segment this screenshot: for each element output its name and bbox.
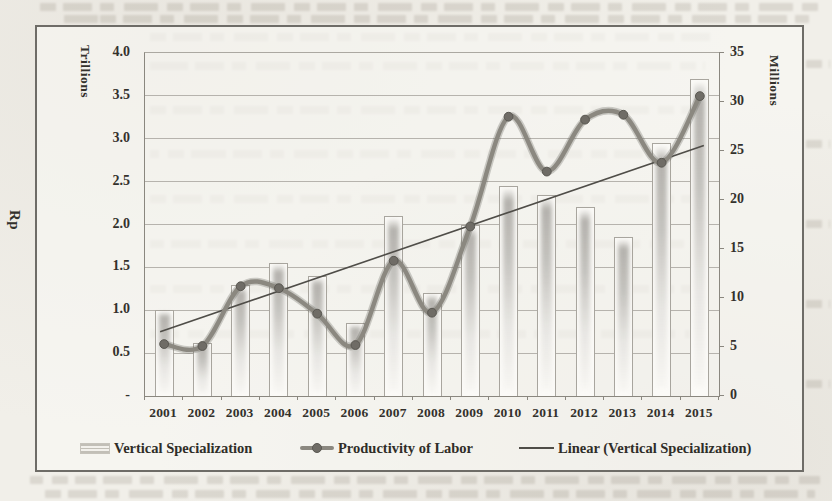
bleedthrough-text <box>806 380 830 388</box>
trendline-swatch-icon <box>519 447 554 449</box>
data-point-2007 <box>389 256 398 265</box>
x-axis-tick <box>144 396 145 400</box>
x-axis-label-2008: 2008 <box>411 405 451 421</box>
x-axis-label-2007: 2007 <box>373 405 413 421</box>
legend-label: Linear (Vertical Specialization) <box>558 440 751 457</box>
right-axis-tick-label: 15 <box>730 240 762 256</box>
trendline <box>160 146 704 332</box>
x-axis-label-2013: 2013 <box>602 405 642 421</box>
x-axis-tick <box>182 396 183 400</box>
left-axis-tick-label: 1.0 <box>78 301 130 317</box>
x-axis-tick <box>374 396 375 400</box>
left-axis-tick-label: - <box>78 387 130 403</box>
right-axis-tick-label: 25 <box>730 142 762 158</box>
x-axis-tick <box>527 396 528 400</box>
right-axis-tick-label: 0 <box>730 387 762 403</box>
data-point-2003 <box>236 282 245 291</box>
legend-label: Vertical Specialization <box>114 440 252 457</box>
x-axis-label-2015: 2015 <box>679 405 719 421</box>
plot-area <box>144 52 720 397</box>
left-axis-tick-label: 2.0 <box>78 216 130 232</box>
x-axis-tick <box>641 396 642 400</box>
x-axis-label-2010: 2010 <box>488 405 528 421</box>
x-axis-tick <box>221 396 222 400</box>
line-layers <box>145 53 719 396</box>
striped-bar-swatch-icon <box>80 443 110 454</box>
x-axis-tick <box>488 396 489 400</box>
left-axis-title: Rp <box>6 210 23 230</box>
right-axis-tick <box>719 346 724 347</box>
bleedthrough-text <box>30 476 820 484</box>
right-axis-tick-label: 5 <box>730 338 762 354</box>
legend-item-productivity-of-labor: Productivity of Labor <box>300 439 473 457</box>
chart-figure: Trillions Millions 4.03.53.02.52.01.51.0… <box>35 25 804 472</box>
right-axis-tick <box>719 101 724 102</box>
x-axis-label-2014: 2014 <box>641 405 681 421</box>
x-axis-label-2002: 2002 <box>181 405 221 421</box>
x-axis-label-2005: 2005 <box>296 405 336 421</box>
line-marker-swatch-icon <box>300 442 334 454</box>
x-axis-tick <box>718 396 719 400</box>
left-axis-tick-label: 1.5 <box>78 258 130 274</box>
x-axis-label-2004: 2004 <box>258 405 298 421</box>
x-axis-label-2001: 2001 <box>143 405 183 421</box>
left-axis-tick-label: 0.5 <box>78 344 130 360</box>
data-point-2008 <box>428 308 437 317</box>
data-point-2012 <box>581 115 590 124</box>
legend-item-vertical-specialization: Vertical Specialization <box>80 439 252 457</box>
left-axis-tick-label: 2.5 <box>78 173 130 189</box>
left-axis-tick-label: 4.0 <box>78 44 130 60</box>
right-axis-tick <box>719 395 724 396</box>
bleedthrough-text <box>60 15 815 23</box>
bleedthrough-text <box>806 140 830 148</box>
x-axis-tick <box>412 396 413 400</box>
right-axis-tick <box>719 150 724 151</box>
data-point-2014 <box>657 158 666 167</box>
right-axis-tick-label: 35 <box>730 44 762 60</box>
right-axis-title: Millions <box>766 55 782 106</box>
right-axis-tick-label: 30 <box>730 93 762 109</box>
x-axis-label-2009: 2009 <box>449 405 489 421</box>
bleedthrough-text <box>45 490 815 498</box>
x-axis-label-2012: 2012 <box>564 405 604 421</box>
x-axis-label-2003: 2003 <box>220 405 260 421</box>
right-axis-tick-label: 20 <box>730 191 762 207</box>
data-point-2013 <box>619 110 628 119</box>
data-point-2005 <box>313 309 322 318</box>
bleedthrough-text <box>806 220 830 228</box>
x-axis-label-2006: 2006 <box>334 405 374 421</box>
x-axis-tick <box>259 396 260 400</box>
right-axis-tick <box>719 52 724 53</box>
left-axis-tick-label: 3.5 <box>78 87 130 103</box>
x-axis-label-2011: 2011 <box>526 405 566 421</box>
data-point-2006 <box>351 341 360 350</box>
data-point-2015 <box>695 92 704 101</box>
x-axis-tick <box>335 396 336 400</box>
data-point-2011 <box>542 167 551 176</box>
data-point-2004 <box>275 284 284 293</box>
right-axis-tick <box>719 297 724 298</box>
right-axis-tick <box>719 248 724 249</box>
legend-label: Productivity of Labor <box>338 440 473 457</box>
legend-item-linear-trendline: Linear (Vertical Specialization) <box>519 439 751 457</box>
data-point-2010 <box>504 112 513 121</box>
x-axis-tick <box>565 396 566 400</box>
bleedthrough-text <box>806 300 830 308</box>
scanned-page: Rp Trillions Millions 4.03.53.02.52.01.5… <box>0 0 832 501</box>
x-axis-tick <box>603 396 604 400</box>
bleedthrough-text <box>806 60 830 68</box>
data-point-2001 <box>160 340 169 349</box>
x-axis-tick <box>680 396 681 400</box>
left-axis-tick-label: 3.0 <box>78 130 130 146</box>
data-point-2002 <box>198 342 207 351</box>
right-axis-tick-label: 10 <box>730 289 762 305</box>
x-axis-tick <box>297 396 298 400</box>
x-axis-tick <box>450 396 451 400</box>
right-axis-tick <box>719 199 724 200</box>
data-point-2009 <box>466 222 475 231</box>
bleedthrough-text <box>40 3 820 11</box>
